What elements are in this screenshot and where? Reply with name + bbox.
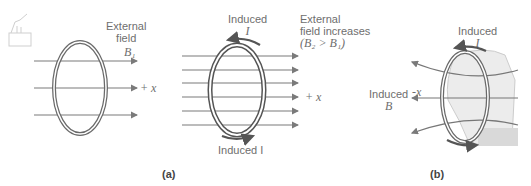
label-line: (B₂ > B₁) (300, 37, 370, 49)
label-line: B (369, 100, 408, 112)
axis-label-plus-x: + x (140, 82, 156, 94)
label-line: I (458, 37, 497, 49)
axis-label-minus-x: -x (412, 86, 421, 98)
wire-loop-induced (210, 45, 264, 135)
field-symbol-b1: B₁ (124, 46, 136, 58)
logo-icon (9, 14, 31, 46)
caption-b: (b) (430, 168, 444, 180)
induced-current-top-label: Induced I (228, 13, 267, 37)
induced-current-label-b: Induced I (458, 25, 497, 49)
external-field-lines-a (34, 61, 137, 115)
label-line: External (106, 20, 146, 32)
external-field-label: External field (106, 20, 146, 44)
induced-field-label-b: Induced B (369, 88, 408, 112)
label-line: I (228, 25, 267, 37)
axis-label-plus-x-right: + x (305, 91, 321, 103)
label-line: External (300, 13, 370, 25)
field-increases-label: External field increases (B₂ > B₁) (300, 13, 370, 49)
external-field-lines-increased (182, 56, 298, 125)
induced-current-bottom-label: Induced I (218, 144, 263, 156)
caption-a: (a) (162, 168, 175, 180)
label-line: field (106, 32, 146, 44)
